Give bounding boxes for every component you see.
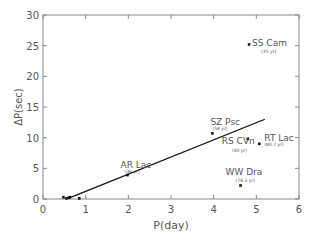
x-tick-label: 0 — [40, 204, 46, 215]
point-period-label: (35 yr) — [261, 49, 276, 54]
point-labels: SS Cam(35 yr)SZ Psc(58 yr)RS CVn(40 yr)R… — [120, 38, 293, 182]
x-tick-label: 6 — [296, 204, 302, 215]
x-axis-label: P(day) — [153, 219, 188, 232]
data-point — [62, 196, 65, 199]
point-period-label: (36 yr) — [124, 169, 139, 174]
point-name-label: RS CVn — [222, 136, 255, 146]
y-tick-label: 10 — [26, 133, 39, 144]
data-point — [126, 174, 129, 177]
x-tick-label: 2 — [125, 204, 131, 215]
point-name-label: WW Dra — [226, 167, 263, 177]
data-point — [248, 43, 251, 46]
x-tick-label: 4 — [210, 204, 216, 215]
y-tick-label: 25 — [26, 41, 39, 52]
x-tick-label: 3 — [168, 204, 174, 215]
y-tick-label: 0 — [33, 194, 39, 205]
point-period-label: (40 yr) — [232, 148, 247, 153]
data-point — [258, 143, 261, 146]
point-period-label: (80.7 yr) — [264, 142, 284, 147]
x-tick-label: 1 — [82, 204, 88, 215]
fit-line — [69, 119, 264, 198]
data-point — [211, 132, 214, 135]
fit-line-segment — [69, 119, 264, 198]
point-name-label: SS Cam — [252, 38, 287, 48]
data-point — [239, 184, 242, 187]
y-tick-label: 15 — [26, 102, 39, 113]
y-tick-label: 5 — [33, 163, 39, 174]
scatter-chart: 0123456051015202530 SS Cam(35 yr)SZ Psc(… — [0, 0, 316, 238]
point-period-label: (78.3 yr) — [236, 178, 256, 183]
data-point — [69, 196, 72, 199]
y-tick-label: 20 — [26, 71, 39, 82]
point-period-label: (58 yr) — [212, 126, 227, 131]
y-axis-label: ΔP(sec) — [13, 88, 24, 126]
y-tick-label: 30 — [26, 10, 39, 21]
x-tick-label: 5 — [253, 204, 259, 215]
data-point — [78, 197, 81, 200]
